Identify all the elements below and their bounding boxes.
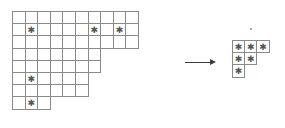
source-cell <box>88 60 102 73</box>
target-young-diagram: ✱✱✱✱✱✱ <box>232 40 269 77</box>
asterisk-marker-icon: ✱ <box>259 43 267 52</box>
source-row: ✱ <box>12 72 138 84</box>
arrow-shaft-icon <box>185 62 211 63</box>
asterisk-marker-icon: ✱ <box>28 75 36 84</box>
source-cell <box>125 35 139 48</box>
stray-mark <box>250 28 252 30</box>
asterisk-marker-icon: ✱ <box>235 55 243 64</box>
source-row <box>12 84 138 96</box>
asterisk-marker-icon: ✱ <box>235 67 243 76</box>
target-cell-marked: ✱ <box>232 64 245 77</box>
source-row <box>12 48 138 60</box>
target-row: ✱✱ <box>232 52 269 64</box>
source-cell-marked: ✱ <box>25 96 39 109</box>
source-row <box>12 60 138 72</box>
source-cell <box>100 35 114 48</box>
transformation-arrow <box>185 59 216 65</box>
asterisk-marker-icon: ✱ <box>91 26 99 35</box>
source-cell <box>113 35 127 48</box>
source-cell <box>37 96 51 109</box>
source-young-diagram: ✱✱✱✱✱ <box>12 11 138 109</box>
source-row <box>12 11 138 23</box>
target-row: ✱✱✱ <box>232 40 269 52</box>
asterisk-marker-icon: ✱ <box>247 55 255 64</box>
source-cell <box>62 84 76 97</box>
source-row <box>12 35 138 47</box>
source-cell <box>75 84 89 97</box>
asterisk-marker-icon: ✱ <box>28 26 36 35</box>
asterisk-marker-icon: ✱ <box>235 43 243 52</box>
source-row: ✱ <box>12 96 138 108</box>
asterisk-marker-icon: ✱ <box>28 99 36 108</box>
target-row: ✱ <box>232 64 269 76</box>
target-cell-marked: ✱ <box>256 40 269 53</box>
arrow-head-icon <box>210 59 216 65</box>
source-row: ✱✱✱ <box>12 23 138 35</box>
asterisk-marker-icon: ✱ <box>247 43 255 52</box>
asterisk-marker-icon: ✱ <box>116 26 124 35</box>
source-cell <box>12 96 26 109</box>
target-cell-marked: ✱ <box>244 52 257 65</box>
source-cell <box>50 84 64 97</box>
figure-canvas: ✱✱✱✱✱ ✱✱✱✱✱✱ <box>0 0 285 128</box>
